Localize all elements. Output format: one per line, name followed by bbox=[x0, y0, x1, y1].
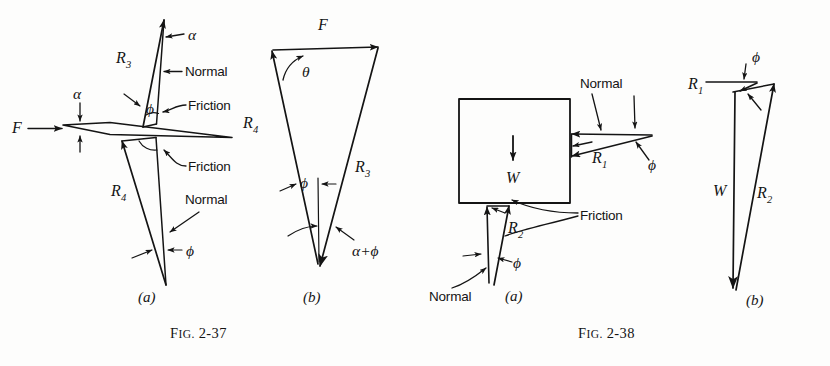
normal-right-label: Normal bbox=[580, 76, 623, 91]
angle-alpha-plus-phi-label: α+ϕ bbox=[352, 242, 379, 259]
angle-phi-pointer-lower-b bbox=[748, 94, 761, 110]
friction-upper-pointer bbox=[163, 105, 186, 112]
normal-right-pointer-1 bbox=[592, 94, 601, 130]
fig-2-37-caption-ig: IG. bbox=[178, 328, 194, 340]
friction-lower-arc bbox=[139, 141, 157, 150]
weight-w-label-b: W bbox=[713, 182, 728, 199]
fig-2-38-caption: FIG. 2-38 bbox=[578, 325, 635, 341]
angle-phi-bottom-pointer-left bbox=[463, 254, 481, 256]
angle-phi-right-label: ϕ bbox=[648, 156, 656, 173]
reaction-r3-label: R bbox=[115, 49, 126, 66]
reaction-r3-subscript-b: 3 bbox=[364, 168, 370, 179]
reaction-r3-subscript: 3 bbox=[125, 59, 131, 70]
reaction-r1-label: R bbox=[591, 149, 602, 166]
weight-w-vector-b bbox=[733, 92, 735, 288]
fig-2-37-b-part-label: (b) bbox=[303, 289, 321, 306]
fig-2-38-b-part-label: (b) bbox=[746, 292, 764, 309]
friction-right-inner-arrow bbox=[573, 142, 592, 146]
angle-alpha-wedge-label: α bbox=[73, 85, 82, 102]
fig-2-37-caption: FIG. 2-37 bbox=[170, 325, 227, 341]
friction-upper-line bbox=[143, 124, 157, 127]
reaction-r2-subscript-b: 2 bbox=[767, 194, 773, 205]
force-f-label-b: F bbox=[317, 16, 328, 33]
normal-bottom-line bbox=[487, 207, 489, 283]
normal-bottom-label: Normal bbox=[429, 289, 472, 304]
reaction-r3-label-b: R bbox=[354, 158, 365, 175]
reaction-r4-label-b: R bbox=[242, 114, 253, 131]
normal-lower-pointer bbox=[170, 212, 199, 232]
fig-2-37-caption-number: 2-37 bbox=[195, 325, 227, 341]
normal-right-pointer-2 bbox=[634, 96, 635, 128]
normal-right-line bbox=[572, 134, 652, 135]
fig-2-38-caption-prefix: F bbox=[578, 325, 586, 341]
angle-theta-label: θ bbox=[302, 63, 310, 80]
friction-pointer-upper bbox=[512, 200, 578, 213]
fig-2-38-caption-number: 2-38 bbox=[603, 325, 635, 341]
angle-phi-lower-label: ϕ bbox=[186, 242, 194, 259]
force-f-vector bbox=[273, 47, 378, 50]
angle-phi-bottom-pointer-right bbox=[498, 258, 512, 262]
normal-lower-label: Normal bbox=[185, 192, 228, 207]
figure-page: F α ϕ R 3 α Normal Frictio bbox=[0, 0, 830, 366]
reaction-r2-vector bbox=[494, 206, 509, 285]
angle-phi-bottom-label: ϕ bbox=[513, 254, 521, 271]
friction-lower-pointer bbox=[164, 150, 186, 166]
friction-lower-label: Friction bbox=[188, 159, 231, 174]
fig-2-38-a-part-label: (a) bbox=[505, 288, 523, 305]
reaction-r1-vector bbox=[572, 136, 652, 156]
force-f-label: F bbox=[11, 119, 22, 136]
reaction-r2-vector-b bbox=[736, 84, 774, 290]
angle-phi-label-b: ϕ bbox=[752, 48, 760, 65]
reaction-r1-label-b: R bbox=[687, 75, 698, 92]
fig-2-37-a-part-label: (a) bbox=[138, 289, 156, 306]
angle-phi-upper-label: ϕ bbox=[146, 100, 154, 117]
friction-bottom-inner-arrow bbox=[492, 208, 505, 213]
weight-w-label: W bbox=[506, 169, 521, 186]
angle-phi-lower-pointer-left bbox=[132, 250, 152, 258]
fig-2-37-a-group: F α ϕ R 3 α Normal Frictio bbox=[11, 20, 232, 306]
fig-2-37-caption-prefix: F bbox=[170, 325, 178, 341]
angle-phi-label-b: ϕ bbox=[300, 174, 308, 191]
angle-alpha-top-label: α bbox=[188, 26, 197, 43]
angle-alpha-plus-phi-pointer bbox=[336, 227, 354, 240]
angle-phi-pointer-left-b bbox=[280, 184, 296, 191]
angle-phi-pointer-top-b bbox=[744, 64, 746, 79]
figures-svg: F α ϕ R 3 α Normal Frictio bbox=[0, 0, 830, 366]
reaction-r4-label: R bbox=[110, 182, 121, 199]
reaction-r3-vector-b bbox=[320, 48, 378, 266]
vertical-reference-line bbox=[318, 178, 319, 262]
normal-lower-line bbox=[156, 138, 166, 286]
normal-bottom-pointer bbox=[452, 268, 486, 288]
angle-phi-upper-pointer bbox=[124, 94, 140, 106]
block-body bbox=[459, 99, 570, 203]
friction-label: Friction bbox=[580, 208, 623, 223]
fig-2-37-b-group: F R 4 R 3 θ ϕ α+ϕ (b) bbox=[242, 16, 379, 306]
angle-theta-arc bbox=[283, 56, 303, 80]
angle-phi-apex-arc bbox=[288, 226, 317, 236]
fig-2-38-b-group: R 1 W R 2 ϕ (b) bbox=[687, 48, 774, 309]
reaction-r4-subscript-b: 4 bbox=[253, 124, 259, 135]
fig-2-38-caption-ig: IG. bbox=[586, 328, 602, 340]
reaction-r4-subscript: 4 bbox=[121, 192, 127, 203]
angle-alpha-top-pointer bbox=[166, 34, 184, 37]
reaction-r1-subscript: 1 bbox=[602, 159, 607, 170]
reaction-r1-subscript-b: 1 bbox=[698, 85, 703, 96]
fig-2-38-a-group: W Normal ϕ R 1 R 2 bbox=[429, 76, 656, 305]
reaction-r2-label-b: R bbox=[756, 184, 767, 201]
normal-upper-label: Normal bbox=[185, 64, 228, 79]
reaction-r4-vector bbox=[122, 141, 166, 285]
wedge-body bbox=[63, 123, 232, 138]
friction-upper-label: Friction bbox=[188, 98, 231, 113]
